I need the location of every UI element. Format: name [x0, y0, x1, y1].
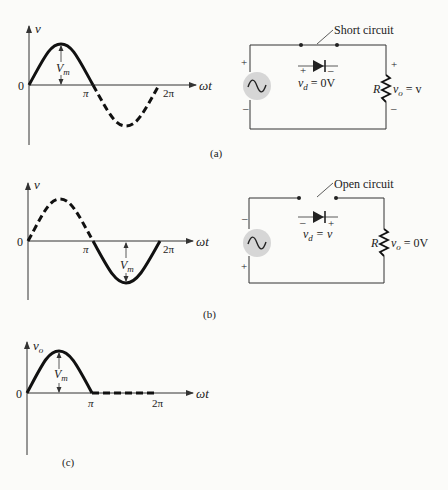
- node-dot-right: [335, 43, 339, 47]
- output-voltage-label: vo = 0V: [391, 236, 429, 252]
- output-voltage-label: vo = v: [393, 82, 422, 98]
- plot-a: v ωt 0 π 2π Vm: [18, 21, 212, 145]
- plot-b: v ωt 0 π 2π Vm: [17, 177, 209, 300]
- tick-2pi: 2π: [163, 87, 175, 99]
- circuit-a: Short circuit + – + – vd = 0V R + – vo =…: [241, 23, 422, 129]
- plot-c: vo ωt 0 π 2π Vm: [16, 338, 209, 455]
- tick-pi: π: [88, 397, 94, 409]
- source-polarity-bottom: –: [242, 102, 249, 114]
- x-axis-label: ωt: [196, 386, 209, 401]
- resistor-polarity-top: +: [391, 58, 397, 70]
- x-axis-label: ωt: [199, 78, 212, 93]
- origin-label: 0: [17, 235, 23, 249]
- caption-a: (a): [210, 147, 223, 160]
- resistor-icon: [380, 229, 388, 256]
- resistor-label: R: [372, 82, 381, 96]
- node-dot-right: [334, 196, 338, 200]
- tick-pi: π: [83, 87, 89, 99]
- source-polarity-top: +: [241, 56, 247, 68]
- amplitude-label: Vm: [56, 61, 70, 77]
- x-axis-label: ωt: [196, 234, 209, 249]
- node-dot-left: [297, 196, 301, 200]
- diode-voltage-label: vd = 0V: [298, 76, 336, 92]
- tick-pi: π: [83, 243, 89, 255]
- node-dot-left: [299, 43, 303, 47]
- circuit-b: Open circuit – + – + vd = v R vo = 0V: [241, 177, 429, 283]
- bottom-wire: [249, 256, 384, 283]
- diode-polarity-right: –: [327, 64, 334, 76]
- top-right-wire: [336, 198, 384, 229]
- amplitude-label: Vm: [120, 258, 134, 274]
- resistor-polarity-bottom: –: [390, 102, 397, 114]
- top-left-wire: [249, 198, 299, 229]
- caption-c: (c): [62, 456, 75, 469]
- annotation-leader: [317, 30, 333, 44]
- tick-2pi: 2π: [163, 243, 175, 255]
- y-axis-label: v: [34, 177, 40, 192]
- annotation-open-circuit: Open circuit: [334, 177, 394, 191]
- resistor-icon: [382, 75, 390, 102]
- waveform-negative-half: [93, 85, 159, 126]
- diode-voltage-label: vd = v: [303, 227, 333, 243]
- amplitude-label: Vm: [54, 367, 68, 383]
- source-polarity-bottom: +: [241, 260, 247, 272]
- resistor-label: R: [370, 236, 379, 250]
- source-polarity-top: –: [241, 212, 248, 224]
- y-axis-label: vo: [33, 338, 44, 355]
- half-wave-rectifier-figure: v ωt 0 π 2π Vm (a) Short circuit + –: [0, 0, 448, 490]
- diode-polarity-left: +: [300, 64, 306, 76]
- waveform-positive-half: [28, 199, 93, 241]
- origin-label: 0: [16, 387, 22, 401]
- annotation-leader: [317, 183, 333, 197]
- top-wire: [250, 45, 386, 75]
- origin-label: 0: [18, 79, 24, 93]
- y-axis-label: v: [35, 21, 41, 36]
- ac-source-icon: [243, 72, 271, 100]
- tick-2pi: 2π: [152, 397, 164, 409]
- bottom-wire: [250, 100, 386, 129]
- caption-b: (b): [203, 308, 216, 321]
- annotation-short-circuit: Short circuit: [334, 23, 394, 37]
- ac-source-icon: [243, 229, 271, 257]
